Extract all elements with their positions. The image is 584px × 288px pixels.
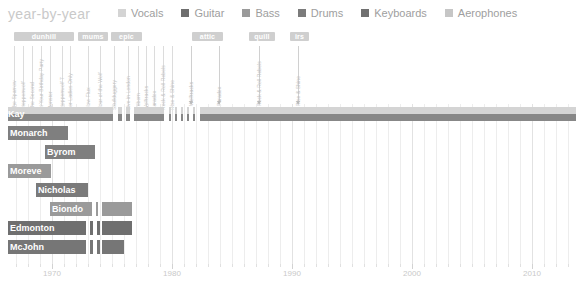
axis-tick bbox=[136, 264, 137, 267]
label-band-irs[interactable]: irs bbox=[290, 32, 309, 41]
x-axis: 19701980199020002010 bbox=[0, 264, 584, 288]
gridline bbox=[196, 104, 197, 264]
legend-item-drums[interactable]: Drums bbox=[298, 7, 343, 19]
legend-label: Keyboards bbox=[374, 7, 427, 19]
plot-area: KayMonarchByromMoreveNicholasBiondoEdmon… bbox=[0, 104, 584, 264]
legend-item-bass[interactable]: Bass bbox=[242, 7, 279, 19]
bar-segment[interactable] bbox=[96, 202, 98, 216]
bar-segment[interactable] bbox=[200, 114, 576, 121]
legend-label: Drums bbox=[311, 7, 343, 19]
legend-item-vocals[interactable]: Vocals bbox=[118, 7, 163, 19]
axis-tick bbox=[232, 264, 233, 267]
axis-tick-label: 2000 bbox=[403, 269, 421, 278]
legend-swatch-icon bbox=[298, 9, 306, 17]
gridline bbox=[424, 104, 425, 264]
axis-tick-label: 2010 bbox=[523, 269, 541, 278]
axis-tick-label: 1980 bbox=[163, 269, 181, 278]
bar-segment[interactable] bbox=[97, 221, 100, 235]
axis-tick bbox=[40, 264, 41, 267]
axis-tick bbox=[16, 264, 17, 267]
gridline bbox=[328, 104, 329, 264]
axis-tick bbox=[424, 264, 425, 267]
bar-segment[interactable] bbox=[97, 240, 100, 254]
axis-tick bbox=[544, 264, 545, 267]
gridline bbox=[460, 104, 461, 264]
axis-tick bbox=[556, 264, 557, 267]
album-tick-label: At Your Birthday Party bbox=[38, 59, 44, 110]
label-band-dunhill[interactable]: dunhill bbox=[14, 32, 74, 41]
legend-swatch-icon bbox=[118, 9, 126, 17]
gridline bbox=[556, 104, 557, 264]
bar-segment[interactable] bbox=[181, 107, 183, 114]
bar-segment[interactable] bbox=[126, 107, 130, 114]
bar-segment[interactable] bbox=[193, 107, 195, 114]
gridline bbox=[160, 104, 161, 264]
gridline bbox=[520, 104, 521, 264]
axis-tick bbox=[352, 264, 353, 267]
gridline bbox=[352, 104, 353, 264]
bar-segment[interactable] bbox=[90, 221, 93, 235]
gridline bbox=[256, 104, 257, 264]
bar-segment[interactable] bbox=[126, 114, 130, 121]
gridline bbox=[388, 104, 389, 264]
axis-tick bbox=[124, 264, 125, 267]
axis-tick bbox=[280, 264, 281, 267]
album-arrow-label: Wolftracks bbox=[188, 82, 194, 106]
axis-tick bbox=[568, 264, 569, 267]
label-band-epic[interactable]: epic bbox=[111, 32, 142, 41]
bar-segment[interactable] bbox=[118, 114, 122, 121]
bar-segment[interactable] bbox=[175, 114, 177, 121]
legend-item-guitar[interactable]: Guitar bbox=[181, 7, 224, 19]
legend-swatch-icon bbox=[361, 9, 369, 17]
bar-segment[interactable] bbox=[102, 240, 124, 254]
axis-tick bbox=[76, 264, 77, 267]
gridline bbox=[484, 104, 485, 264]
bar-segment[interactable] bbox=[102, 221, 132, 235]
bar-segment[interactable] bbox=[169, 114, 171, 121]
axis-tick bbox=[316, 264, 317, 267]
axis-tick bbox=[220, 264, 221, 267]
bar-segment[interactable] bbox=[90, 240, 93, 254]
bar-segment[interactable] bbox=[187, 107, 189, 114]
axis-tick bbox=[496, 264, 497, 267]
gridline bbox=[220, 104, 221, 264]
bar-segment[interactable] bbox=[169, 107, 171, 114]
album-arrow-label: Rock & Roll Rebels bbox=[256, 61, 262, 106]
gridline bbox=[364, 104, 365, 264]
axis-tick bbox=[148, 264, 149, 267]
gridline bbox=[100, 104, 101, 264]
axis-tick bbox=[364, 264, 365, 267]
label-band-quill[interactable]: quill bbox=[249, 32, 275, 41]
bar-segment[interactable] bbox=[118, 107, 122, 114]
gridline bbox=[508, 104, 509, 264]
legend-item-aerophones[interactable]: Aerophones bbox=[445, 7, 517, 19]
gridline bbox=[124, 104, 125, 264]
label-band-mums[interactable]: mums bbox=[78, 32, 108, 41]
bar-segment[interactable] bbox=[134, 107, 164, 114]
axis-tick bbox=[244, 264, 245, 267]
legend-swatch-icon bbox=[242, 9, 250, 17]
gridline bbox=[544, 104, 545, 264]
axis-tick bbox=[460, 264, 461, 267]
bar-segment[interactable] bbox=[187, 114, 189, 121]
label-band-attic[interactable]: attic bbox=[192, 32, 223, 41]
bar-segment[interactable] bbox=[181, 114, 183, 121]
gridline bbox=[172, 104, 173, 264]
bar-segment[interactable] bbox=[175, 107, 177, 114]
bar-segment[interactable] bbox=[102, 202, 132, 216]
axis-tick bbox=[520, 264, 521, 267]
bar-segment[interactable] bbox=[193, 114, 195, 121]
gridline bbox=[244, 104, 245, 264]
bar-segment[interactable] bbox=[200, 107, 576, 114]
row-label-biondo: Biondo bbox=[52, 205, 83, 214]
bar-segment[interactable] bbox=[134, 114, 164, 121]
axis-tick bbox=[340, 264, 341, 267]
row-label-kay: Kay bbox=[8, 110, 25, 119]
axis-tick bbox=[376, 264, 377, 267]
axis-tick bbox=[388, 264, 389, 267]
gridline bbox=[400, 104, 401, 264]
legend-item-keyboards[interactable]: Keyboards bbox=[361, 7, 427, 19]
axis-tick bbox=[328, 264, 329, 267]
axis-tick bbox=[196, 264, 197, 267]
axis-tick bbox=[472, 264, 473, 267]
